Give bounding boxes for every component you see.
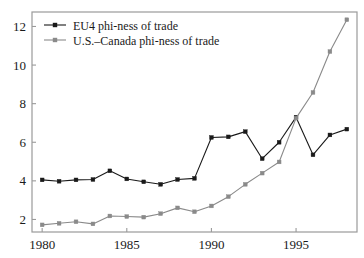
series-line [42, 20, 347, 225]
series-eu4 [40, 115, 348, 186]
legend-entry-us-canada: U.S.–Canada phi-ness of trade [44, 34, 219, 48]
data-point [210, 136, 214, 140]
y-tick-label: 6 [20, 135, 27, 150]
data-point [345, 127, 349, 131]
data-point [91, 178, 95, 182]
y-tick-label: 10 [13, 58, 26, 73]
y-tick-label: 12 [13, 19, 26, 34]
chart-container: 1980198519901995 24681012 EU4 phi-ness o… [0, 0, 364, 258]
line-chart: 1980198519901995 24681012 EU4 phi-ness o… [0, 0, 364, 258]
data-point [125, 177, 129, 181]
data-point [260, 157, 264, 161]
legend-marker-swatch [53, 23, 57, 27]
series-line [42, 117, 347, 184]
data-point [193, 210, 197, 214]
data-point [260, 171, 264, 175]
data-point [328, 133, 332, 137]
y-tick-label: 4 [20, 173, 27, 188]
data-point [243, 130, 247, 134]
legend-marker-swatch [53, 38, 57, 42]
data-point [311, 91, 315, 95]
data-point [226, 195, 230, 199]
data-point [142, 215, 146, 219]
data-point [159, 212, 163, 216]
data-point [193, 176, 197, 180]
data-point [74, 178, 78, 182]
x-tick-label: 1995 [283, 237, 309, 252]
legend-label: EU4 phi-ness of trade [73, 19, 178, 33]
chart-legend: EU4 phi-ness of tradeU.S.–Canada phi-nes… [44, 19, 219, 48]
data-point [159, 182, 163, 186]
x-tick-label: 1985 [114, 237, 140, 252]
legend-entry-eu4: EU4 phi-ness of trade [44, 19, 178, 33]
data-point [40, 223, 44, 227]
x-tick-label: 1980 [29, 237, 55, 252]
data-point [226, 135, 230, 139]
data-point [328, 50, 332, 54]
data-point [142, 180, 146, 184]
x-tick-label: 1990 [198, 237, 224, 252]
data-point [40, 178, 44, 182]
data-point [243, 182, 247, 186]
series-layer [40, 18, 348, 227]
data-point [176, 178, 180, 182]
data-point [345, 18, 349, 22]
y-tick-label: 2 [20, 212, 27, 227]
y-tick-label: 8 [20, 96, 27, 111]
legend-label: U.S.–Canada phi-ness of trade [73, 34, 219, 48]
data-point [277, 140, 281, 144]
data-point [91, 222, 95, 226]
data-point [108, 214, 112, 218]
data-point [57, 179, 61, 183]
data-point [210, 204, 214, 208]
data-point [74, 220, 78, 224]
data-point [277, 160, 281, 164]
data-point [311, 153, 315, 157]
data-point [125, 215, 129, 219]
data-point [57, 221, 61, 225]
series-us-canada [40, 18, 348, 227]
data-point [176, 206, 180, 210]
data-point [294, 116, 298, 120]
data-point [108, 169, 112, 173]
